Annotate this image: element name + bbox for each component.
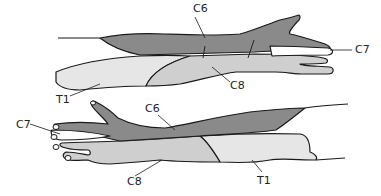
top-label-c6: C6 xyxy=(193,3,208,14)
bottom-arm xyxy=(51,101,348,164)
bottom-label-t1: T1 xyxy=(257,175,271,186)
top-c7-region xyxy=(270,46,333,56)
bottom-label-c6: C6 xyxy=(145,103,160,114)
top-label-t1: T1 xyxy=(56,94,70,105)
bottom-label-c8: C8 xyxy=(127,176,142,187)
top-label-c7: C7 xyxy=(355,44,370,55)
bottom-label-c7: C7 xyxy=(16,119,31,130)
top-arm xyxy=(56,15,333,90)
top-label-c8: C8 xyxy=(230,80,245,91)
